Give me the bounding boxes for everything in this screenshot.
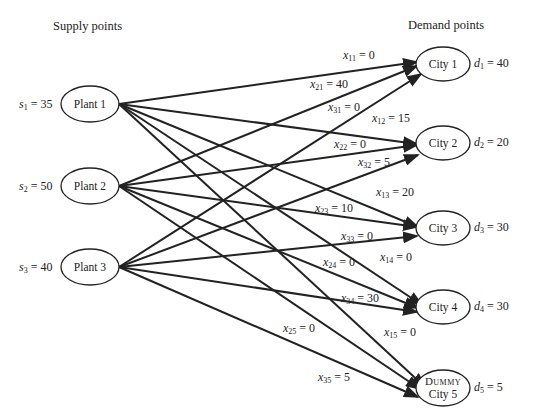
flow-label-x11: x11 = 0	[343, 49, 375, 63]
demand-3: d3 = 30	[474, 221, 509, 235]
demand-points-header: Demand points	[408, 19, 484, 32]
city-1-label: City 1	[416, 58, 470, 71]
flow-label-x14: x14 = 0	[380, 251, 412, 265]
arc-1-5	[119, 104, 425, 387]
flow-label-x32: x32 = 5	[358, 156, 390, 170]
flow-label-x23: x23 = 10	[315, 202, 353, 216]
flow-label-x34: x34 = 30	[341, 292, 379, 306]
plant-3-label: Plant 3	[61, 261, 119, 274]
city-5-label: DummyCity 5	[416, 375, 470, 400]
demand-2: d2 = 20	[474, 136, 509, 150]
flow-label-x12: x12 = 15	[372, 112, 410, 126]
arc-2-3	[119, 186, 417, 227]
flow-label-x15: x15 = 0	[384, 326, 416, 340]
flow-label-x22: x22 = 0	[334, 138, 366, 152]
city-4-label: City 4	[416, 301, 470, 314]
demand-1: d1 = 40	[474, 57, 509, 71]
supply-points-header: Supply points	[53, 20, 122, 33]
flow-label-x13: x13 = 20	[376, 186, 414, 200]
flow-label-x33: x33 = 0	[341, 230, 373, 244]
city-3-label: City 3	[416, 222, 470, 235]
supply-3: s3 = 40	[19, 261, 52, 275]
supply-2: s2 = 50	[19, 180, 52, 194]
city-2-label: City 2	[416, 137, 470, 150]
plant-1-label: Plant 1	[61, 98, 119, 111]
flow-label-x25: x25 = 0	[283, 322, 315, 336]
flow-label-x35: x35 = 5	[318, 371, 350, 385]
flow-label-x31: x31 = 0	[328, 101, 360, 115]
flow-label-x21: x21 = 40	[310, 78, 348, 92]
demand-4: d4 = 30	[474, 300, 509, 314]
supply-1: s1 = 35	[19, 98, 52, 112]
flow-label-x24: x24 = 0	[323, 256, 355, 270]
demand-5: d5 = 5	[474, 381, 503, 395]
plant-2-label: Plant 2	[61, 180, 119, 193]
